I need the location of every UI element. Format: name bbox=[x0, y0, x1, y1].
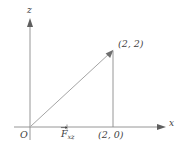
z-axis-label: z bbox=[27, 6, 32, 15]
foot-point-label: (2, 0) bbox=[98, 130, 124, 140]
apex-point-label: (2, 2) bbox=[118, 39, 144, 49]
x-axis-arrowhead bbox=[157, 124, 166, 130]
hypotenuse-arrowhead bbox=[106, 50, 114, 58]
z-axis-arrowhead bbox=[27, 18, 33, 27]
force-vector-label: F xz bbox=[61, 129, 74, 141]
x-axis-label: x bbox=[169, 119, 174, 128]
force-symbol-base: F bbox=[61, 129, 68, 139]
origin-label: O bbox=[20, 130, 28, 140]
hypotenuse-vector-line bbox=[31, 53, 110, 126]
force-symbol-subscript: xz bbox=[68, 133, 75, 141]
force-symbol-letter: F bbox=[61, 128, 68, 139]
coordinate-diagram: z x O (2, 2) (2, 0) F xz bbox=[0, 0, 183, 153]
